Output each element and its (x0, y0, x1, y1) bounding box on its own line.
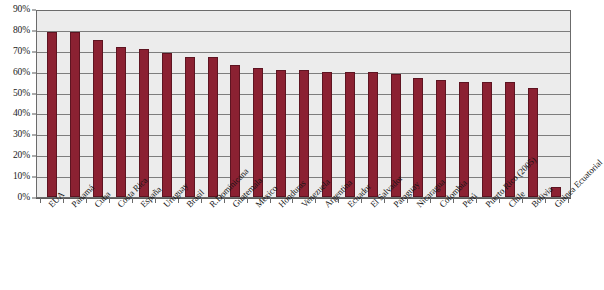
plot-area (36, 10, 571, 198)
bar[interactable] (368, 72, 378, 197)
bar-slot (316, 11, 339, 197)
bar-slot (133, 11, 156, 197)
bar-slot (64, 11, 87, 197)
bar-slot (201, 11, 224, 197)
y-tick-label: 40% (13, 110, 30, 120)
bar-slot (247, 11, 270, 197)
bar-slot (453, 11, 476, 197)
bar-slot (430, 11, 453, 197)
bar-slot (407, 11, 430, 197)
bars-layer (37, 11, 570, 197)
bar[interactable] (116, 47, 126, 197)
y-tick-label: 10% (13, 172, 30, 182)
y-tick-label: 80% (13, 26, 30, 36)
bar-slot (293, 11, 316, 197)
bar[interactable] (47, 32, 57, 197)
bar[interactable] (185, 57, 195, 197)
bar[interactable] (482, 82, 492, 197)
y-axis: 90%80%70%60%50%40%30%20%10%0% (0, 10, 36, 198)
bar-slot (41, 11, 64, 197)
bar[interactable] (70, 32, 80, 197)
y-tick-label: 20% (13, 151, 30, 161)
bar[interactable] (528, 88, 538, 197)
bar[interactable] (276, 70, 286, 197)
bar[interactable] (93, 40, 103, 197)
x-axis-labels: EUAPanamáCubaCosta RicaEspañaUruguayBras… (36, 203, 571, 290)
bar[interactable] (139, 49, 149, 197)
y-tick-label: 0% (18, 193, 30, 203)
bar-slot (155, 11, 178, 197)
bar[interactable] (208, 57, 218, 197)
bar-slot (270, 11, 293, 197)
y-tick-label: 50% (13, 89, 30, 99)
bar-slot (338, 11, 361, 197)
bar-slot (544, 11, 567, 197)
y-tick-label: 90% (13, 5, 30, 15)
bar-slot (87, 11, 110, 197)
bar-slot (476, 11, 499, 197)
bar-slot (361, 11, 384, 197)
bar-slot (178, 11, 201, 197)
bar-slot (110, 11, 133, 197)
bar[interactable] (162, 53, 172, 197)
y-tick-label: 60% (13, 68, 30, 78)
y-tick-label: 30% (13, 131, 30, 141)
y-tick-label: 70% (13, 47, 30, 57)
bar-slot (384, 11, 407, 197)
